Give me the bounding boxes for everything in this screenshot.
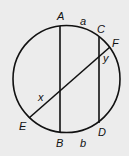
chord-ef (29, 47, 110, 118)
label-e-point: E (19, 120, 27, 132)
label-angle-x: x (37, 91, 44, 103)
label-arc-a: a (80, 15, 86, 27)
label-angle-y: y (102, 52, 110, 64)
label-f-point: F (112, 37, 120, 49)
label-d-point: D (98, 126, 106, 138)
circle-chords-diagram: A a C F y x E D B b (0, 0, 129, 156)
label-a-point: A (56, 10, 64, 22)
label-c-point: C (97, 23, 105, 35)
label-arc-b: b (80, 137, 86, 149)
circle (13, 26, 120, 133)
label-b-point: B (56, 137, 63, 149)
